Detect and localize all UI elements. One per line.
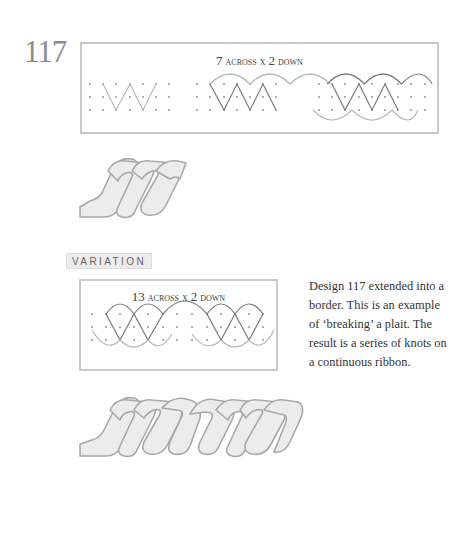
grid-dot xyxy=(220,326,222,328)
grid-dot xyxy=(147,326,149,328)
grid-dot xyxy=(105,326,107,328)
grid-dot xyxy=(262,326,264,328)
grid-dot xyxy=(234,326,236,328)
grid-dot xyxy=(162,339,164,341)
grid-dot xyxy=(119,313,121,315)
grid-dot xyxy=(133,326,135,328)
grid-dot xyxy=(248,313,250,315)
grid-dot xyxy=(133,339,135,341)
grid-dot xyxy=(91,326,93,328)
grid-dot xyxy=(262,339,264,341)
variation-bottom-arcs-right xyxy=(192,330,274,347)
border-knot-illustration xyxy=(78,392,308,462)
grid-dot xyxy=(147,313,149,315)
grid-dot xyxy=(234,339,236,341)
grid-dot xyxy=(206,326,208,328)
dot-grid-variation xyxy=(91,313,264,341)
variation-top-arcs xyxy=(106,301,263,314)
grid-dot xyxy=(206,339,208,341)
grid-dot xyxy=(191,326,193,328)
grid-dot xyxy=(248,326,250,328)
grid-dot xyxy=(91,313,93,315)
grid-dot xyxy=(220,313,222,315)
grid-dot xyxy=(105,339,107,341)
grid-dot xyxy=(91,339,93,341)
grid-dot xyxy=(191,339,193,341)
grid-dot xyxy=(176,313,178,315)
grid-dot xyxy=(176,339,178,341)
variation-bottom-arcs xyxy=(92,330,172,347)
grid-dot xyxy=(162,326,164,328)
grid-dot xyxy=(119,326,121,328)
variation-description: Design 117 extended into a border. This … xyxy=(309,277,449,372)
grid-dot xyxy=(191,313,193,315)
grid-dot xyxy=(176,326,178,328)
